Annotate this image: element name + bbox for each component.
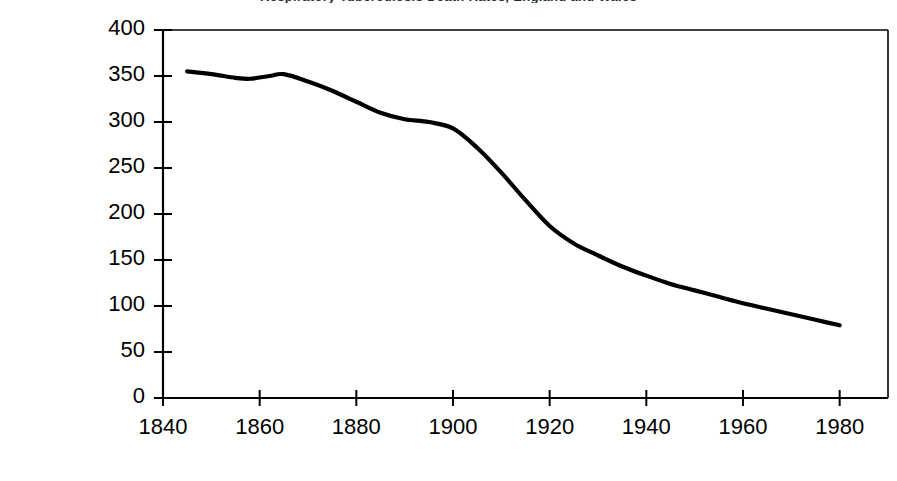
y-tick-label: 400 xyxy=(45,15,145,41)
chart-figure: Respiratory Tuberculosis Death Rates, En… xyxy=(0,0,897,481)
y-tick-label: 350 xyxy=(45,61,145,87)
y-tick-label: 50 xyxy=(45,337,145,363)
axis-frame xyxy=(163,30,888,398)
y-tick-label: 150 xyxy=(45,245,145,271)
data-series-line xyxy=(187,71,840,325)
y-tick-label: 250 xyxy=(45,153,145,179)
y-tick-label: 100 xyxy=(45,291,145,317)
y-tick-label: 0 xyxy=(45,383,145,409)
y-tick-label: 200 xyxy=(45,199,145,225)
y-tick-label: 300 xyxy=(45,107,145,133)
x-tick-label: 1980 xyxy=(780,414,897,440)
